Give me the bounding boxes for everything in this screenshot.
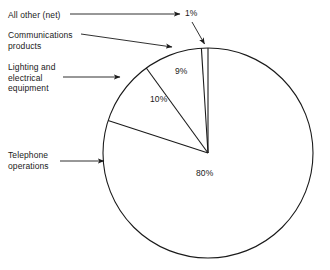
leader-line-communications — [81, 34, 172, 47]
callout-label-lighting-and-electrical-equipment: Lighting and electrical equipment — [8, 62, 56, 94]
slice-value-all-other: 1% — [185, 8, 198, 18]
leader-line-one-percent-to-slice — [192, 22, 205, 44]
pie-chart-figure: All other (net) Communications products … — [0, 0, 330, 270]
slice-value-telephone-operations: 80% — [196, 168, 213, 178]
callout-label-communications-products: Communications products — [8, 30, 73, 51]
slice-value-communications-products: 9% — [175, 66, 188, 76]
callout-label-all-other: All other (net) — [8, 10, 61, 21]
slice-value-lighting-and-electrical-equipment: 10% — [150, 94, 167, 104]
callout-label-telephone-operations: Telephone operations — [8, 150, 49, 171]
